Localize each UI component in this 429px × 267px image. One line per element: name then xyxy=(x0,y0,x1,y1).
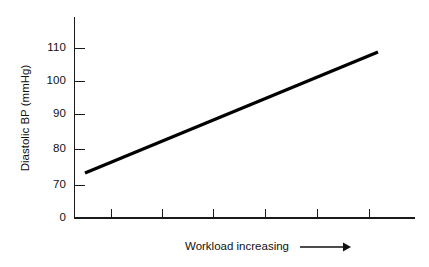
workload-arrow-head xyxy=(343,243,351,252)
y-tick-label-90: 90 xyxy=(32,108,66,120)
y-tick-label-110: 110 xyxy=(32,42,66,54)
y-tick-label-80: 80 xyxy=(32,143,66,155)
y-tick-label-0: 0 xyxy=(32,212,66,224)
y-tick-label-70: 70 xyxy=(32,179,66,191)
y-axis-title: Diastolic BP (mmHg) xyxy=(19,38,31,198)
y-tick-label-100: 100 xyxy=(32,75,66,87)
chart-figure: 110 100 90 80 70 0 Diastolic BP (mmHg) W… xyxy=(0,0,429,267)
x-axis-title: Workload increasing xyxy=(185,240,289,252)
data-line-diastolic-bp xyxy=(85,52,378,173)
